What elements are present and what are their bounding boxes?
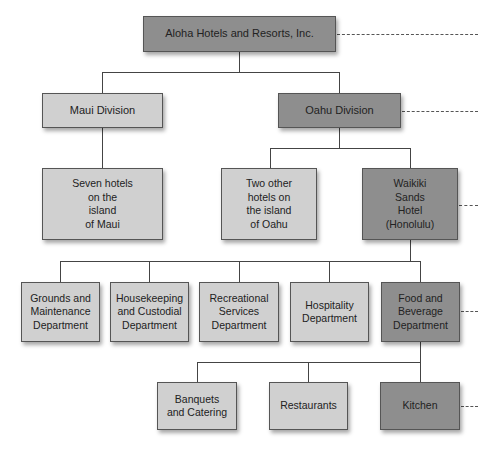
node-banquets-catering: Banquets and Catering	[157, 382, 237, 430]
node-maui-division: Maui Division	[42, 93, 163, 128]
node-grounds-maintenance: Grounds and Maintenance Department	[21, 282, 100, 342]
connector	[102, 72, 340, 73]
connector	[102, 72, 103, 93]
node-oahu-other-hotels: Two other hotels on the island of Oahu	[221, 168, 317, 240]
connector	[60, 261, 421, 262]
connector	[329, 261, 330, 282]
connector	[308, 362, 309, 382]
connector	[197, 362, 198, 382]
dashed-leader	[337, 34, 478, 35]
node-waikiki-sands-hotel: Waikiki Sands Hotel (Honolulu)	[362, 168, 458, 240]
node-kitchen: Kitchen	[380, 382, 460, 430]
connector	[270, 148, 411, 149]
connector	[420, 261, 421, 282]
dashed-leader	[459, 205, 478, 206]
connector	[410, 148, 411, 168]
dashed-leader	[402, 111, 478, 112]
connector	[339, 72, 340, 93]
connector	[239, 52, 240, 72]
dashed-leader	[461, 406, 478, 407]
connector	[339, 128, 340, 148]
node-recreational-services: Recreational Services Department	[199, 282, 279, 342]
node-restaurants: Restaurants	[269, 382, 348, 430]
node-maui-hotels: Seven hotels on the island of Maui	[42, 168, 163, 240]
connector	[410, 240, 411, 261]
connector	[102, 128, 103, 168]
node-company: Aloha Hotels and Resorts, Inc.	[143, 16, 336, 52]
connector	[270, 148, 271, 168]
connector	[60, 261, 61, 282]
dashed-leader	[461, 311, 478, 312]
node-housekeeping-custodial: Housekeeping and Custodial Department	[110, 282, 189, 342]
node-hospitality: Hospitality Department	[290, 282, 369, 342]
connector	[149, 261, 150, 282]
node-oahu-division: Oahu Division	[278, 93, 401, 128]
connector	[197, 362, 421, 363]
connector	[239, 261, 240, 282]
node-food-beverage: Food and Beverage Department	[381, 282, 460, 342]
